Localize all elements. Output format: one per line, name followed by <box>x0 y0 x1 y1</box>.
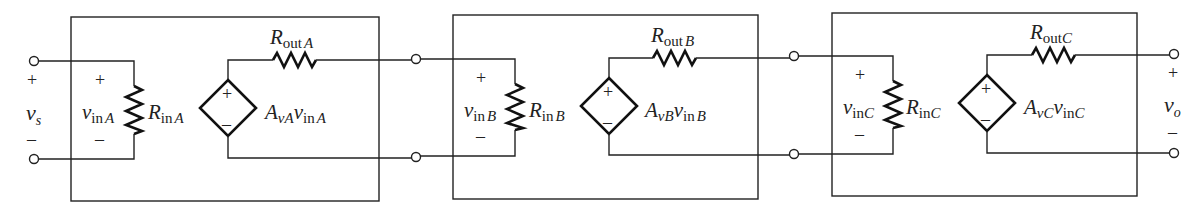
stage-a-output-terminal-bottom <box>412 153 421 162</box>
rin-b-label: RinB <box>528 98 565 124</box>
output-minus: – <box>1167 122 1178 142</box>
vin-b-minus: – <box>475 126 486 146</box>
vin-c-label: vinC <box>843 95 875 121</box>
stage-b-output-terminal-bottom <box>790 150 799 159</box>
rout-a-resistor <box>273 53 316 67</box>
source-plus: + <box>27 70 37 90</box>
stage-b: + – vinB RinB RoutB + – AvBvinB <box>420 23 799 159</box>
output-labels: + – vo <box>1164 63 1181 142</box>
rin-a-label: RinA <box>147 100 185 126</box>
rout-b-label: RoutB <box>650 23 694 49</box>
vin-a-minus: – <box>94 129 105 149</box>
stage-a: + – vinA RinA RoutA + – AvAvinA <box>82 25 421 162</box>
rout-c-resistor <box>1032 48 1075 62</box>
source-c-plus: + <box>981 79 991 99</box>
output-voltage-label: vo <box>1164 92 1181 120</box>
source-a-plus: + <box>222 84 232 104</box>
rout-c-label: RoutC <box>1029 20 1073 46</box>
stage-c: + – vinC RinC RoutC + – AvCvinC <box>798 20 1179 158</box>
rout-b-resistor <box>653 51 696 65</box>
vin-a-label: vinA <box>82 100 115 126</box>
source-b-minus: – <box>602 112 613 132</box>
rin-c-label: RinC <box>905 95 942 121</box>
stage-a-output-terminal-top <box>412 55 421 64</box>
source-c-minus: – <box>980 109 991 129</box>
vin-c-plus: + <box>855 65 865 85</box>
vin-b-label: vinB <box>464 98 496 124</box>
output-plus: + <box>1168 63 1178 83</box>
gain-b-label: AvBvinB <box>643 98 706 124</box>
stage-b-output-terminal-top <box>790 52 799 61</box>
source-voltage-label: vs <box>26 100 42 128</box>
rout-a-label: RoutA <box>269 25 314 51</box>
gain-a-label: AvAvinA <box>263 100 327 126</box>
rin-b-resistor <box>507 84 523 130</box>
source-a-minus: – <box>221 114 232 134</box>
source-terminals: + – vs <box>26 57 134 164</box>
cascaded-amplifier-diagram: + – vs + – vinA RinA RoutA + – AvAvinA +… <box>0 0 1202 216</box>
rin-a-resistor <box>126 86 142 134</box>
rin-c-resistor <box>885 81 901 128</box>
output-terminal-top <box>1170 50 1179 59</box>
gain-c-label: AvCvinC <box>1022 95 1086 121</box>
source-terminal-bottom <box>30 155 39 164</box>
source-b-plus: + <box>603 82 613 102</box>
vin-a-plus: + <box>95 70 105 90</box>
vin-b-plus: + <box>476 68 486 88</box>
source-terminal-top <box>30 57 39 66</box>
output-terminal-bottom <box>1170 149 1179 158</box>
vin-c-minus: – <box>854 124 865 144</box>
source-minus: – <box>26 129 37 149</box>
